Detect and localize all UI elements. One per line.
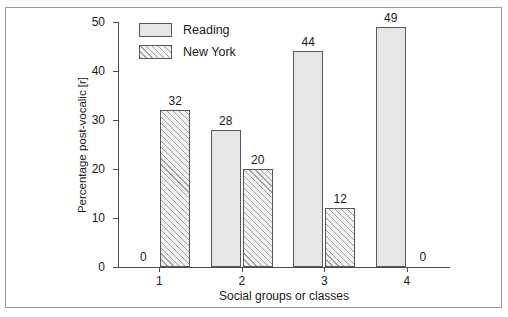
bar-reading-group-4: 49 <box>376 27 406 267</box>
x-axis-tick <box>159 267 160 272</box>
bar-value-label-zero: 0 <box>419 250 426 264</box>
bar-value-label: 20 <box>251 153 264 167</box>
x-axis-title: Social groups or classes <box>219 289 349 303</box>
legend-item-label: Reading <box>183 23 230 37</box>
y-axis-tick-label: 10 <box>92 211 105 225</box>
chart-legend: ReadingNew York <box>139 21 236 65</box>
bar-value-label: 49 <box>384 11 397 25</box>
legend-item-label: New York <box>183 45 236 59</box>
x-axis-tick-label: 4 <box>403 274 410 288</box>
bar-value-label: 28 <box>219 114 232 128</box>
x-axis-tick-label: 1 <box>156 274 163 288</box>
hatched-swatch <box>139 45 172 59</box>
bar-value-label: 12 <box>334 192 347 206</box>
y-axis-title: Percentage post-vocalic [r] <box>76 77 88 213</box>
y-axis-tick-label: 50 <box>92 15 105 29</box>
solid-swatch <box>139 23 172 37</box>
figure-container: Percentage post-vocalic [r] Social group… <box>0 0 508 317</box>
bar-value-label: 44 <box>302 35 315 49</box>
x-axis-tick-label: 3 <box>321 274 328 288</box>
bar-value-label-zero: 0 <box>140 250 147 264</box>
legend-item-reading: Reading <box>139 21 236 39</box>
x-axis-tick <box>407 267 408 272</box>
bar-reading-group-2: 28 <box>211 130 241 267</box>
bar-new-york-group-2: 20 <box>243 169 273 267</box>
bar-new-york-group-1: 32 <box>160 110 190 267</box>
y-axis-tick-label: 0 <box>98 260 105 274</box>
y-axis-tick-label: 20 <box>92 162 105 176</box>
y-axis-tick-label: 30 <box>92 113 105 127</box>
x-axis-line: 1234 <box>118 267 450 268</box>
x-axis-tick <box>324 267 325 272</box>
bar-reading-group-3: 44 <box>293 51 323 267</box>
legend-item-new-york: New York <box>139 43 236 61</box>
x-axis-tick <box>242 267 243 272</box>
bar-value-label: 32 <box>169 94 182 108</box>
x-axis-tick-label: 2 <box>238 274 245 288</box>
y-axis-tick-label: 40 <box>92 64 105 78</box>
bar-new-york-group-3: 12 <box>325 208 355 267</box>
